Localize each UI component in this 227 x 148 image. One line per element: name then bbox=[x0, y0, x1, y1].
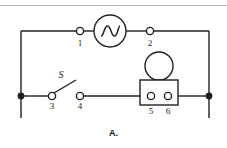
figure-container: 1 2 3 4 5 6 S A. bbox=[0, 0, 227, 148]
terminal-1-circle[interactable] bbox=[76, 27, 83, 34]
ac-source-circle bbox=[94, 15, 126, 47]
circuit-diagram bbox=[0, 0, 227, 148]
terminal-5-circle[interactable] bbox=[147, 92, 154, 99]
terminal-2-label: 2 bbox=[142, 39, 158, 48]
terminal-6-label: 6 bbox=[160, 107, 176, 116]
terminal-3-circle[interactable] bbox=[48, 92, 55, 99]
switch-blade[interactable] bbox=[54, 80, 76, 93]
terminal-4-label: 4 bbox=[72, 102, 88, 111]
junction-left-node bbox=[18, 93, 25, 100]
terminal-3-label: 3 bbox=[44, 102, 60, 111]
junction-right-node bbox=[206, 93, 213, 100]
lamp-socket-box bbox=[140, 80, 178, 105]
figure-caption: A. bbox=[0, 128, 227, 138]
terminal-2-circle[interactable] bbox=[146, 27, 153, 34]
terminal-1-label: 1 bbox=[72, 39, 88, 48]
lamp-bulb-circle bbox=[145, 52, 173, 80]
terminal-5-label: 5 bbox=[143, 107, 159, 116]
terminal-6-circle[interactable] bbox=[164, 92, 171, 99]
switch-label: S bbox=[54, 70, 68, 80]
sine-wave-icon bbox=[101, 26, 120, 36]
terminal-4-circle[interactable] bbox=[76, 92, 83, 99]
